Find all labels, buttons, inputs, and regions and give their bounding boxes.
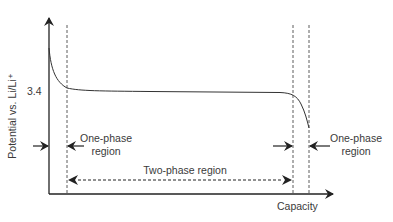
voltage-profile-diagram: Potential vs. Li/Li⁺ 3.4 One-phase regio… xyxy=(0,0,393,222)
right-region-label-line1: One-phase xyxy=(326,132,386,144)
two-phase-arrowhead-right xyxy=(282,175,292,185)
two-phase-region-label: Two-phase region xyxy=(130,164,240,176)
left-region-label-line2: region xyxy=(76,145,136,157)
two-phase-arrowhead-left xyxy=(68,175,78,185)
y-tick-3-4: 3.4 xyxy=(27,85,42,97)
y-axis-label: Potential vs. Li/Li⁺ xyxy=(6,56,18,176)
diagram-graphics xyxy=(0,0,393,222)
left-region-label-line1: One-phase xyxy=(76,132,136,144)
x-axis-label: Capacity xyxy=(277,200,318,212)
voltage-curve xyxy=(49,48,309,128)
right-region-label-line2: region xyxy=(326,145,386,157)
